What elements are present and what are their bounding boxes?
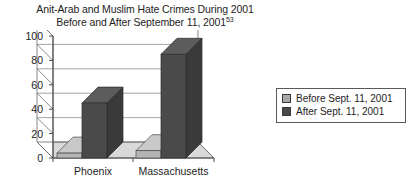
legend-swatch-before-icon: [282, 94, 291, 103]
legend-label-before: Before Sept. 11, 2001: [296, 93, 393, 104]
y-tick-label-100: 100: [17, 30, 43, 42]
legend-swatch-after-icon: [282, 107, 291, 116]
y-tick-label-0: 0: [17, 152, 43, 164]
chart-figure: Anit-Arab and Muslim Hate Crimes During …: [0, 0, 413, 187]
x-tick-label-phoenix: Phoenix: [53, 165, 133, 177]
bar-phoenix-after: [82, 87, 123, 158]
chart-subtitle-text: Before and After September 11, 2001: [56, 16, 226, 28]
legend-label-after: After Sept. 11, 2001: [296, 106, 384, 117]
y-tick-label-80: 80: [17, 54, 43, 66]
chart-title-block: Anit-Arab and Muslim Hate Crimes During …: [0, 3, 290, 29]
chart-subtitle: Before and After September 11, 200153: [0, 16, 290, 29]
y-tick-label-60: 60: [17, 79, 43, 91]
bar-massachusetts-after: [161, 38, 202, 158]
y-tick-label-20: 20: [17, 128, 43, 140]
y-tick-label-40: 40: [17, 103, 43, 115]
chart-legend: Before Sept. 11, 2001 After Sept. 11, 20…: [276, 88, 406, 123]
chart-title-footnote: 53: [226, 16, 234, 23]
chart-title: Anit-Arab and Muslim Hate Crimes During …: [0, 3, 290, 16]
x-tick-marks: [53, 158, 214, 162]
plot-area: 100 80 60 40 20 0 Phoenix Massachusetts: [0, 30, 250, 175]
x-tick-label-massachusetts: Massachusetts: [133, 165, 214, 177]
legend-item-before: Before Sept. 11, 2001: [282, 92, 400, 105]
legend-item-after: After Sept. 11, 2001: [282, 105, 400, 118]
